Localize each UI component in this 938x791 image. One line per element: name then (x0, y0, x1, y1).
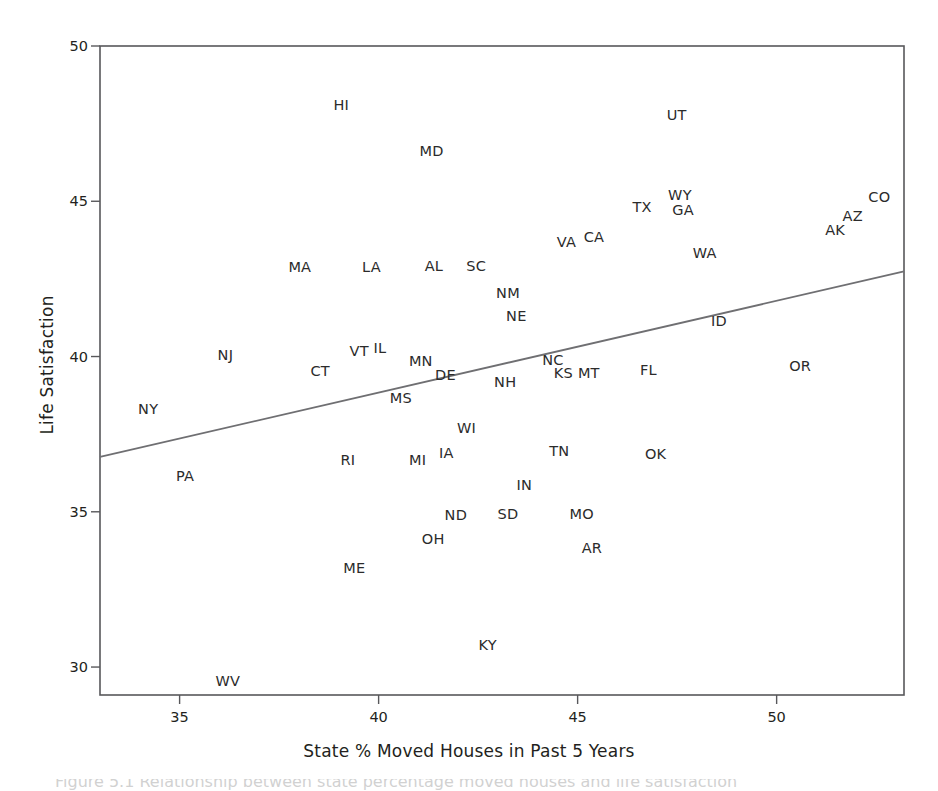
x-tick-label: 40 (369, 709, 387, 725)
data-point-label-ks: KS (554, 365, 573, 381)
data-point-label-in: IN (517, 477, 533, 493)
data-point-label-ky: KY (479, 637, 497, 653)
data-point-label-ga: GA (672, 202, 694, 218)
data-point-label-al: AL (425, 258, 443, 274)
data-point-label-hi: HI (333, 97, 349, 113)
data-point-label-sd: SD (498, 506, 519, 522)
y-tick-label: 30 (52, 659, 88, 675)
data-point-label-nj: NJ (218, 347, 234, 363)
data-point-label-tx: TX (632, 199, 651, 215)
data-point-label-mi: MI (409, 452, 426, 468)
data-point-label-de: DE (435, 367, 456, 383)
data-point-label-nd: ND (445, 507, 467, 523)
data-point-label-nm: NM (496, 285, 520, 301)
plot-frame (100, 46, 904, 695)
data-point-label-mn: MN (409, 353, 433, 369)
plot-canvas (0, 0, 938, 791)
data-point-label-md: MD (420, 143, 444, 159)
data-point-label-ms: MS (390, 390, 412, 406)
data-point-label-ar: AR (582, 540, 602, 556)
data-point-label-ma: MA (288, 259, 311, 275)
data-point-label-va: VA (557, 234, 576, 250)
data-point-label-il: IL (373, 340, 386, 356)
data-point-label-wi: WI (457, 420, 476, 436)
figure-caption-strip: Figure 5.1 Relationship between state pe… (0, 779, 938, 791)
data-point-label-id: ID (711, 313, 727, 329)
data-point-label-az: AZ (843, 208, 863, 224)
x-tick-label: 50 (767, 709, 785, 725)
data-point-label-fl: FL (640, 362, 657, 378)
data-point-label-mo: MO (569, 506, 593, 522)
data-point-label-ny: NY (138, 401, 158, 417)
y-tick-label: 50 (52, 38, 88, 54)
data-point-label-nh: NH (494, 374, 516, 390)
data-point-label-vt: VT (350, 343, 369, 359)
data-point-label-mt: MT (578, 365, 600, 381)
x-axis-title: State % Moved Houses in Past 5 Years (0, 741, 938, 761)
data-point-label-la: LA (362, 259, 381, 275)
data-point-label-tn: TN (549, 443, 569, 459)
data-point-label-or: OR (789, 358, 811, 374)
data-point-label-ak: AK (825, 222, 845, 238)
x-tick-label: 45 (568, 709, 586, 725)
y-axis-title: Life Satisfaction (37, 225, 57, 505)
scatter-plot-figure: Life Satisfaction State % Moved Houses i… (0, 0, 938, 791)
figure-caption: Figure 5.1 Relationship between state pe… (55, 779, 737, 791)
data-point-label-oh: OH (422, 531, 445, 547)
data-point-label-ut: UT (667, 107, 687, 123)
data-point-label-pa: PA (176, 468, 194, 484)
data-point-label-ca: CA (584, 229, 604, 245)
data-point-label-wy: WY (668, 187, 692, 203)
data-point-label-ne: NE (506, 308, 526, 324)
x-tick-label: 35 (170, 709, 188, 725)
data-point-label-ia: IA (439, 445, 454, 461)
y-tick-label: 40 (52, 349, 88, 365)
data-point-label-sc: SC (466, 258, 486, 274)
data-point-label-ok: OK (645, 446, 666, 462)
data-point-label-wa: WA (693, 245, 717, 261)
data-point-label-ri: RI (341, 452, 356, 468)
y-tick-label: 45 (52, 193, 88, 209)
y-tick-label: 35 (52, 504, 88, 520)
data-point-label-wv: WV (215, 673, 240, 689)
data-point-label-me: ME (343, 560, 365, 576)
data-point-label-ct: CT (310, 363, 329, 379)
data-point-label-co: CO (868, 189, 890, 205)
